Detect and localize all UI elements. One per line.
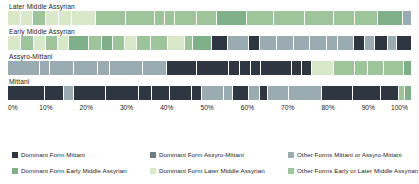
x-axis-tick-label: 100%: [391, 102, 408, 113]
bar-segment: [292, 61, 302, 75]
bar-segment: [384, 61, 403, 75]
bar-segment: [375, 36, 388, 50]
bar-segment: [175, 11, 196, 25]
bar-segment: [50, 61, 74, 75]
bar-segment: [233, 86, 249, 100]
bar-segment: [224, 86, 233, 100]
bar-segment: [46, 11, 59, 25]
x-axis-tick-label: 70%: [281, 102, 294, 113]
bar-segment: [8, 86, 45, 100]
bar-segment: [64, 86, 74, 100]
legend-item[interactable]: Other Forms Mittani or Assyro-Mittani: [288, 150, 412, 159]
bar-segment: [378, 11, 403, 25]
bar-segment: [34, 36, 46, 50]
bar-row-label: Assyro-Mittani: [8, 52, 411, 61]
x-axis-tick-label: 90%: [362, 102, 375, 113]
plot-area: Later Middle AssyrianEarly Middle Assyri…: [8, 2, 411, 114]
bar-segment: [302, 61, 312, 75]
bar-segment: [139, 86, 152, 100]
bar-segment: [322, 86, 353, 100]
bar-segment: [217, 11, 246, 25]
bar-segment: [249, 36, 260, 50]
bar-row-group: Mittani: [8, 77, 411, 100]
bar-segment: [21, 11, 33, 25]
x-axis-tick-label: 10%: [39, 102, 52, 113]
x-axis-tick-label: 50%: [201, 102, 214, 113]
bar-segment: [40, 61, 50, 75]
bar-segment: [334, 61, 355, 75]
bar-row-group: Later Middle Assyrian: [8, 2, 411, 25]
legend-swatch-icon: [150, 152, 156, 158]
bar-segment: [260, 36, 277, 50]
bar-segment: [212, 36, 228, 50]
bar-segment: [170, 86, 192, 100]
legend-label: Other Forms Early or Later Middle Assyri…: [297, 166, 418, 175]
bar-segment: [58, 36, 69, 50]
bar-segment: [381, 86, 399, 100]
bar-segment: [312, 61, 334, 75]
bar-segment: [229, 61, 239, 75]
legend-swatch-icon: [150, 168, 156, 174]
bar-segment: [59, 11, 72, 25]
bar-segment: [110, 61, 143, 75]
x-axis: 0%10%20%30%40%50%60%70%80%90%100%: [8, 102, 411, 114]
bar-segment: [167, 61, 197, 75]
bar-segment: [404, 61, 411, 75]
bar-segment: [310, 36, 326, 50]
bar-segment: [151, 36, 169, 50]
legend-label: Dominant Form Early Middle Assyrian: [21, 166, 127, 175]
stacked-bar: [8, 11, 411, 25]
bar-segment: [185, 36, 193, 50]
bar-segment: [155, 11, 165, 25]
bar-row-label: Mittani: [8, 77, 411, 86]
bar-segment: [8, 36, 21, 50]
bar-segment: [74, 86, 106, 100]
bar-segment: [338, 36, 354, 50]
bar-segment: [21, 36, 34, 50]
bar-segment: [334, 11, 355, 25]
legend-swatch-icon: [288, 152, 294, 158]
stacked-bar: [8, 86, 411, 100]
bar-row-label: Later Middle Assyrian: [8, 2, 411, 11]
bar-segment: [403, 11, 411, 25]
bar-segment: [126, 11, 155, 25]
bar-segment: [397, 36, 411, 50]
bar-segment: [228, 36, 249, 50]
x-axis-tick-label: 0%: [8, 102, 18, 113]
x-axis-tick-label: 30%: [120, 102, 133, 113]
bar-segment: [69, 36, 89, 50]
stacked-bar: [8, 61, 411, 75]
bar-segment: [137, 36, 150, 50]
bar-segment: [305, 11, 334, 25]
bar-row-label: Early Middle Assyrian: [8, 27, 411, 36]
legend-item[interactable]: Dominant Form Later Middle Assyrian: [150, 166, 288, 175]
legend-label: Dominant Form Assyro-Mittani: [159, 150, 244, 159]
bar-segment: [289, 86, 322, 100]
x-axis-tick-label: 20%: [80, 102, 93, 113]
bar-segment: [89, 36, 102, 50]
legend-item[interactable]: Dominant Form Assyro-Mittani: [150, 150, 288, 159]
bar-segment: [354, 36, 365, 50]
bar-segment: [368, 61, 385, 75]
bar-segment: [74, 61, 98, 75]
bar-segment: [197, 61, 229, 75]
bar-segment: [355, 61, 368, 75]
bar-segment: [143, 61, 167, 75]
legend-item[interactable]: Dominant Form Early Middle Assyrian: [12, 166, 150, 175]
bar-segment: [152, 86, 170, 100]
bar-segment: [247, 11, 275, 25]
legend-row: Dominant Form Early Middle AssyrianDomin…: [12, 166, 412, 182]
bar-segment: [106, 86, 139, 100]
bar-segment: [8, 11, 21, 25]
bar-segment: [249, 86, 260, 100]
bar-segment: [46, 36, 58, 50]
bar-segment: [197, 11, 218, 25]
legend-item[interactable]: Dominant Form Mittani: [12, 150, 150, 159]
bar-segment: [72, 11, 96, 25]
stacked-bar-chart: Later Middle AssyrianEarly Middle Assyri…: [0, 0, 419, 184]
legend-swatch-icon: [288, 168, 294, 174]
bar-segment: [261, 61, 291, 75]
legend-item[interactable]: Other Forms Early or Later Middle Assyri…: [288, 166, 412, 175]
legend-label: Dominant Form Mittani: [21, 150, 85, 159]
bar-row-group: Early Middle Assyrian: [8, 27, 411, 50]
